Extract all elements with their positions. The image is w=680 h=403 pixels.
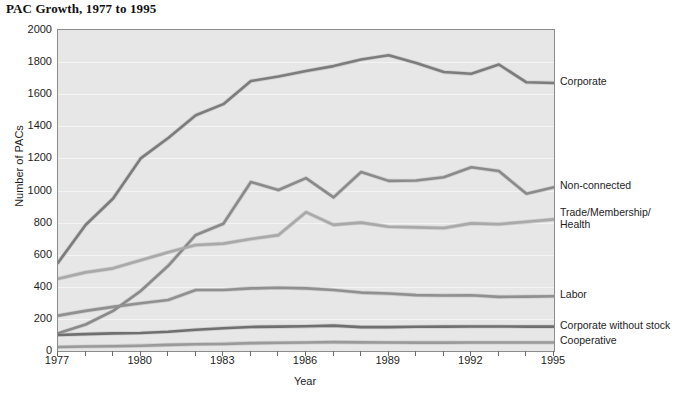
y-tick-label: 1600 bbox=[2, 87, 52, 99]
y-tick-label: 1000 bbox=[2, 184, 52, 196]
plot-area bbox=[57, 29, 555, 352]
y-tick-label: 1800 bbox=[2, 55, 52, 67]
series-line bbox=[58, 55, 554, 263]
x-axis-title: Year bbox=[294, 375, 316, 387]
series-line-halo bbox=[58, 288, 554, 316]
y-tick-label: 1400 bbox=[2, 119, 52, 131]
x-tick-label: 1989 bbox=[375, 354, 399, 366]
x-tick-mark bbox=[85, 351, 86, 356]
x-tick-label: 1995 bbox=[541, 354, 565, 366]
series-label-cooperative: Cooperative bbox=[560, 336, 617, 348]
x-tick-mark bbox=[167, 351, 168, 356]
x-tick-label: 1980 bbox=[127, 354, 151, 366]
series-label-trade-membership-health: Trade/Membership/ Health bbox=[560, 207, 651, 230]
series-label-non-connected: Non-connected bbox=[560, 181, 631, 193]
x-tick-mark bbox=[333, 351, 334, 356]
series-line bbox=[58, 167, 554, 333]
series-line-halo bbox=[58, 212, 554, 279]
series-label-corporate-without-stock: Corporate without stock bbox=[560, 320, 670, 332]
y-tick-label: 400 bbox=[2, 280, 52, 292]
x-tick-label: 1983 bbox=[210, 354, 234, 366]
x-tick-mark bbox=[415, 351, 416, 356]
x-tick-mark bbox=[360, 351, 361, 356]
y-tick-label: 2000 bbox=[2, 23, 52, 35]
y-tick-label: 1200 bbox=[2, 151, 52, 163]
y-tick-label: 200 bbox=[2, 312, 52, 324]
series-line bbox=[58, 288, 554, 316]
x-tick-mark bbox=[195, 351, 196, 356]
series-line bbox=[58, 326, 554, 335]
series-line-halo bbox=[58, 55, 554, 263]
series-line-halo bbox=[58, 167, 554, 333]
x-tick-mark bbox=[112, 351, 113, 356]
x-tick-mark bbox=[277, 351, 278, 356]
x-tick-mark bbox=[250, 351, 251, 356]
x-tick-mark bbox=[525, 351, 526, 356]
x-tick-mark bbox=[498, 351, 499, 356]
x-tick-label: 1992 bbox=[458, 354, 482, 366]
x-tick-label: 1986 bbox=[293, 354, 317, 366]
x-tick-mark bbox=[443, 351, 444, 356]
series-label-corporate: Corporate bbox=[560, 76, 607, 88]
y-axis-title: Number of PACs bbox=[13, 116, 25, 216]
series-label-labor: Labor bbox=[560, 290, 587, 302]
y-axis-tick-labels: 0200400600800100012001400160018002000 bbox=[0, 0, 52, 403]
y-tick-label: 600 bbox=[2, 248, 52, 260]
y-tick-label: 800 bbox=[2, 216, 52, 228]
x-tick-label: 1977 bbox=[45, 354, 69, 366]
data-lines bbox=[58, 30, 554, 351]
